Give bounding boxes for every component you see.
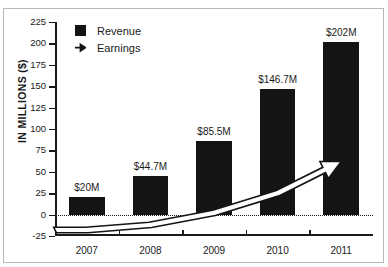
y-tick-label: 50: [35, 167, 46, 177]
y-tick-label: 175: [30, 60, 46, 70]
revenue-earnings-chart: IN MILLIONS ($) 225200175150125100755025…: [0, 0, 388, 267]
y-tick-label: -25: [32, 231, 46, 241]
y-tick-label: 100: [30, 124, 46, 134]
y-tick-label: 0: [41, 210, 46, 220]
y-tick-label: 225: [30, 17, 46, 27]
x-tick: [182, 230, 183, 236]
x-tick-label: 2010: [266, 245, 288, 256]
legend-label-revenue: Revenue: [97, 25, 141, 37]
y-tick-label: 150: [30, 81, 46, 91]
revenue-swatch-icon: [75, 25, 86, 36]
y-tick: [49, 236, 55, 237]
legend-item-earnings: Earnings: [75, 39, 141, 56]
legend-label-earnings: Earnings: [97, 42, 140, 54]
y-tick-label: 25: [35, 188, 46, 198]
x-tick: [309, 230, 310, 236]
x-tick-label: 2008: [139, 245, 161, 256]
y-tick-label: 200: [30, 39, 46, 49]
arrow-right-icon: [75, 42, 86, 53]
x-tick-label: 2009: [203, 245, 225, 256]
y-tick-label: 75: [35, 146, 46, 156]
y-tick-label: 125: [30, 103, 46, 113]
chart-legend: Revenue Earnings: [75, 22, 141, 56]
x-tick: [119, 230, 120, 236]
y-axis-title: IN MILLIONS ($): [16, 41, 28, 161]
legend-item-revenue: Revenue: [75, 22, 141, 39]
x-tick-label: 2007: [76, 245, 98, 256]
x-tick-label: 2011: [330, 245, 352, 256]
x-tick: [246, 230, 247, 236]
